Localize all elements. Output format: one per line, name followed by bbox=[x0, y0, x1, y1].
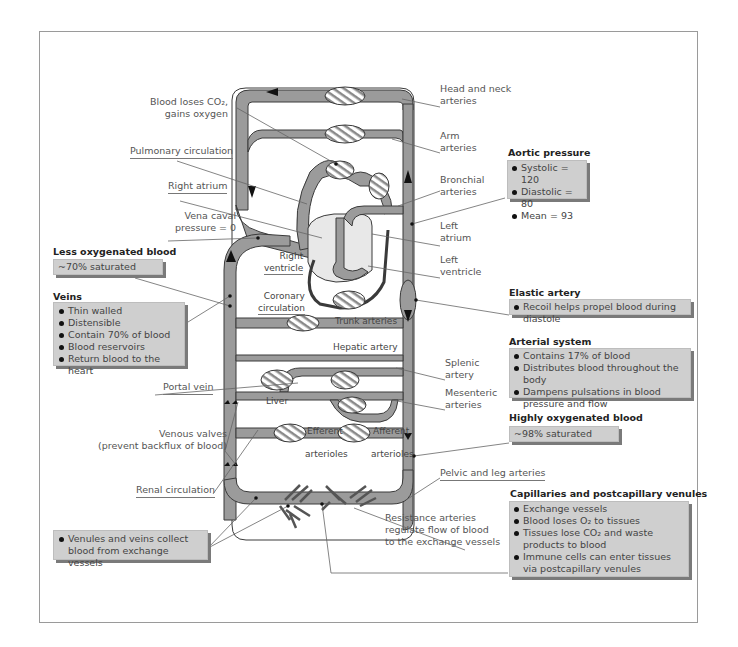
arterial-system-header: Arterial system bbox=[509, 336, 591, 347]
label-blood-loses-co2: Blood loses CO₂, gains oxygen bbox=[150, 96, 228, 120]
aortic-item: Systolic = 120 bbox=[511, 162, 583, 186]
highly-oxygenated-header: Highly oxygenated blood bbox=[509, 412, 643, 423]
liver-portal bbox=[236, 392, 403, 400]
aortic-item: Mean = 93 bbox=[511, 210, 583, 222]
capillary-renal-1 bbox=[274, 424, 306, 442]
label-renal-circulation: Renal circulation bbox=[136, 484, 215, 498]
label-afferent: Afferent bbox=[373, 426, 409, 436]
venules-item: Venules and veins collect blood from exc… bbox=[58, 533, 203, 569]
veins-header: Veins bbox=[53, 291, 82, 302]
veins-item: Thin walled bbox=[58, 305, 180, 317]
capillary-trunk2 bbox=[287, 315, 319, 331]
label-resistance-arteries: Resistance arteries regulate flow of blo… bbox=[385, 512, 500, 548]
label-liver: Liver bbox=[266, 396, 288, 406]
capillary-spleen bbox=[331, 371, 359, 389]
capillaries-item: Exchange vessels bbox=[513, 503, 685, 515]
label-hepatic-artery: Hepatic artery bbox=[333, 342, 398, 352]
label-arm-arteries: Arm arteries bbox=[440, 130, 477, 154]
capillary-lung bbox=[326, 161, 354, 179]
label-left-atrium: Left atrium bbox=[440, 220, 471, 244]
label-right-atrium: Right atrium bbox=[168, 180, 227, 194]
veins-item: Contain 70% of blood bbox=[58, 329, 180, 341]
less-oxygenated-header: Less oxygenated blood bbox=[53, 246, 176, 257]
label-trunk-arteries: Trunk arteries bbox=[335, 316, 397, 326]
arterial-system-box: Contains 17% of blood Distributes blood … bbox=[509, 348, 691, 398]
highly-oxygenated-box: ~98% saturated bbox=[509, 426, 619, 442]
label-splenic-artery: Splenic artery bbox=[445, 357, 479, 381]
lower-loop bbox=[224, 470, 413, 504]
arterial-item: Contains 17% of blood bbox=[513, 350, 687, 362]
label-right-ventricle: Right ventricle bbox=[264, 250, 303, 275]
arterial-item: Dampens pulsations in blood pressure and… bbox=[513, 386, 687, 410]
label-venous-valves: Venous valves (prevent backflux of blood… bbox=[98, 428, 227, 452]
less-oxygenated-box: ~70% saturated bbox=[53, 259, 163, 275]
label-efferent: Efferent bbox=[307, 426, 343, 436]
label-left-ventricle: Left ventricle bbox=[440, 254, 481, 278]
label-afferent-arterioles: arterioles bbox=[371, 449, 414, 459]
label-vena-caval-pressure: Vena caval pressure = 0 bbox=[175, 210, 236, 234]
capillary-gut bbox=[338, 397, 366, 413]
veins-item: Blood reservoirs bbox=[58, 341, 180, 353]
label-portal-vein: Portal vein bbox=[163, 381, 213, 395]
aortic-item: Diastolic = 80 bbox=[511, 186, 583, 210]
label-head-neck-arteries: Head and neck arteries bbox=[440, 83, 511, 107]
capillary-bronchial bbox=[369, 173, 389, 199]
capillary-trunk bbox=[333, 291, 365, 309]
hepatic-artery bbox=[236, 355, 403, 361]
capillary-arm bbox=[325, 125, 365, 143]
label-pelvic-leg-arteries: Pelvic and leg arteries bbox=[440, 467, 545, 481]
veins-box: Thin walled Distensible Contain 70% of b… bbox=[53, 302, 185, 366]
capillary-head bbox=[325, 87, 365, 105]
capillary-liver bbox=[261, 370, 293, 390]
aortic-pressure-box: Systolic = 120 Diastolic = 80 Mean = 93 bbox=[507, 160, 587, 199]
capillaries-item: Blood loses O₂ to tissues bbox=[513, 515, 685, 527]
capillaries-box: Exchange vessels Blood loses O₂ to tissu… bbox=[509, 501, 689, 577]
label-mesenteric-arteries: Mesenteric arteries bbox=[445, 387, 497, 411]
label-coronary-circulation: Coronary circulation bbox=[258, 290, 305, 315]
elastic-artery-box: Recoil helps propel blood during diastol… bbox=[509, 299, 691, 315]
elastic-artery-header: Elastic artery bbox=[509, 287, 581, 298]
veins-item: Distensible bbox=[58, 317, 180, 329]
leg-vessels bbox=[280, 485, 376, 528]
capillaries-header: Capillaries and postcapillary venules bbox=[510, 488, 707, 499]
capillaries-item: Immune cells can enter tissues via postc… bbox=[513, 551, 685, 575]
elastic-item: Recoil helps propel blood during diastol… bbox=[513, 301, 687, 325]
label-pulmonary-circulation: Pulmonary circulation bbox=[130, 145, 233, 159]
label-efferent-arterioles: arterioles bbox=[305, 449, 348, 459]
arterial-item: Distributes blood throughout the body bbox=[513, 362, 687, 386]
veins-item: Return blood to the heart bbox=[58, 353, 180, 377]
label-bronchial-arteries: Bronchial arteries bbox=[440, 174, 484, 198]
venules-box: Venules and veins collect blood from exc… bbox=[53, 530, 208, 560]
capillaries-item: Tissues lose CO₂ and waste products to b… bbox=[513, 527, 685, 551]
aortic-pressure-header: Aortic pressure bbox=[508, 147, 590, 158]
